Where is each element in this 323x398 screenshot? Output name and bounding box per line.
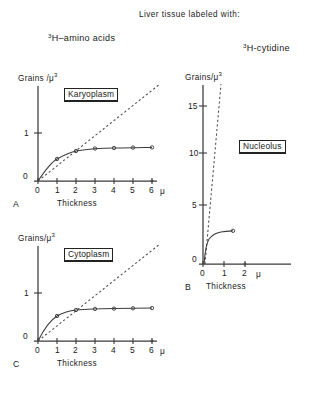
panel-c-x-unit: μ	[160, 347, 165, 355]
figure-root: Liver tissue labeled with: 3H–amino acid…	[0, 0, 323, 398]
panel-c-xtick-label-3: 3	[92, 346, 97, 354]
panel-c-series-solid	[38, 308, 152, 341]
panel-c-xtick-label-5: 5	[130, 346, 135, 354]
panel-c-xtick-label-1: 1	[55, 346, 60, 354]
panel-c-x-axis-title: Thickness	[57, 360, 97, 368]
panel-c-plot	[0, 0, 323, 398]
panel-c-xtick-label-2: 2	[73, 346, 78, 354]
panel-c-letter: C	[13, 360, 19, 369]
panel-c-ytick-label-1: 1	[24, 289, 29, 297]
panel-c-xtick-label-6: 6	[149, 346, 154, 354]
panel-c-xaxis-endpoint	[151, 340, 154, 343]
panel-c-xtick-label-0: 0	[35, 346, 40, 354]
panel-c-xtick-label-4: 4	[111, 346, 116, 354]
panel-c-series-dashed	[38, 244, 160, 341]
panel-c-ytick-label-0: 0	[23, 332, 28, 340]
